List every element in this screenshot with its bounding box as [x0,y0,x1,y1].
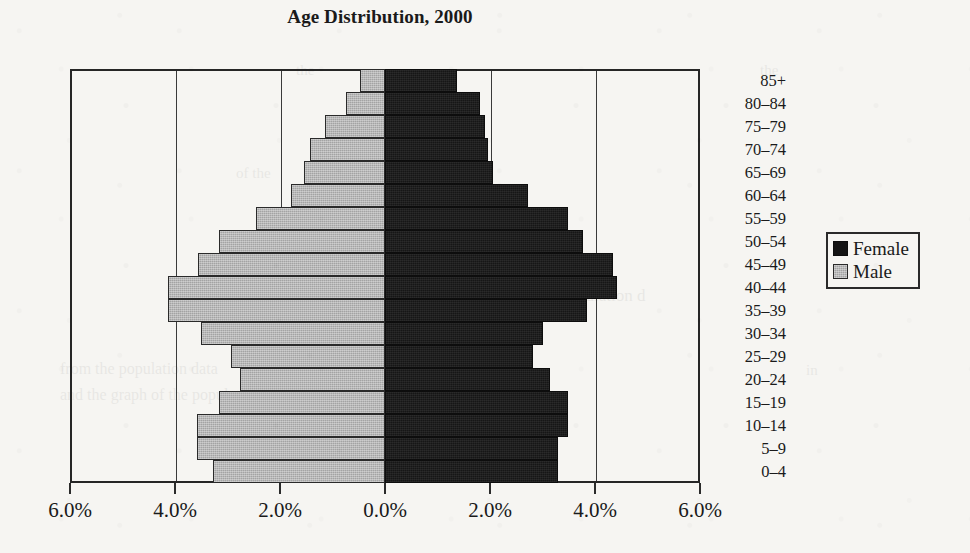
age-group-label: 85+ [706,69,786,92]
legend-swatch-icon [833,264,848,279]
legend-label: Female [853,239,909,258]
bar-female-80-84 [385,92,480,115]
bar-male-25-29 [231,345,385,368]
bar-row [70,460,700,483]
bleed-through-text: in [806,362,818,379]
bar-male-30-34 [201,322,385,345]
bar-female-65-69 [385,161,493,184]
age-group-axis-labels: 85+80–8475–7970–7465–6960–6455–5950–5445… [706,69,786,483]
x-axis-tick [174,483,176,494]
x-axis-tick-label: 6.0% [645,498,755,523]
bar-row [70,414,700,437]
x-axis-tick-label: 2.0% [435,498,545,523]
bar-male-65-69 [304,161,385,184]
age-group-label: 10–14 [706,414,786,437]
bar-male-45-49 [198,253,385,276]
bar-row [70,437,700,460]
x-axis-tick [279,483,281,494]
bar-row [70,368,700,391]
bar-female-70-74 [385,138,488,161]
x-axis-tick-label: 4.0% [120,498,230,523]
bar-female-30-34 [385,322,543,345]
bar-female-25-29 [385,345,533,368]
age-group-label: 5–9 [706,437,786,460]
bar-female-60-64 [385,184,528,207]
bar-male-50-54 [219,230,385,253]
age-group-label: 70–74 [706,138,786,161]
bar-male-40-44 [168,276,385,299]
bar-row [70,138,700,161]
x-axis-tick [384,483,386,494]
legend-item-female: Female [833,237,909,260]
age-group-label: 55–59 [706,207,786,230]
bar-male-75-79 [325,115,385,138]
chart-title: Age Distribution, 2000 [0,6,760,28]
x-axis-tick [699,483,701,494]
bar-row [70,207,700,230]
bar-male-80-84 [346,92,385,115]
x-axis-tick [69,483,71,494]
legend-swatch-icon [833,241,848,256]
chart-legend: FemaleMale [826,232,920,289]
bar-male-0-4 [213,460,385,483]
x-axis-tick-label: 2.0% [225,498,335,523]
bar-row [70,115,700,138]
bar-female-0-4 [385,460,558,483]
bar-female-20-24 [385,368,550,391]
bar-female-40-44 [385,276,617,299]
bar-female-50-54 [385,230,583,253]
bar-male-5-9 [197,437,385,460]
age-group-label: 40–44 [706,276,786,299]
x-axis-tick-label: 4.0% [540,498,650,523]
age-group-label: 80–84 [706,92,786,115]
bar-male-35-39 [168,299,385,322]
bar-male-10-14 [197,414,385,437]
bar-row [70,345,700,368]
x-axis-tick-label: 0.0% [330,498,440,523]
age-group-label: 50–54 [706,230,786,253]
age-group-label: 35–39 [706,299,786,322]
age-group-label: 25–29 [706,345,786,368]
age-group-label: 60–64 [706,184,786,207]
age-group-label: 65–69 [706,161,786,184]
bar-female-15-19 [385,391,568,414]
bar-row [70,161,700,184]
bar-male-55-59 [256,207,385,230]
age-group-label: 30–34 [706,322,786,345]
legend-item-male: Male [833,260,909,283]
bar-female-75-79 [385,115,485,138]
bar-row [70,299,700,322]
bar-female-85+ [385,69,457,92]
bar-row [70,253,700,276]
bar-male-85+ [360,69,385,92]
x-axis-tick [594,483,596,494]
bar-female-35-39 [385,299,587,322]
age-group-label: 0–4 [706,460,786,483]
legend-label: Male [853,262,892,281]
bar-row [70,92,700,115]
bar-row [70,322,700,345]
bar-male-70-74 [310,138,385,161]
bar-male-20-24 [240,368,385,391]
bar-female-55-59 [385,207,568,230]
bar-row [70,230,700,253]
age-group-label: 75–79 [706,115,786,138]
x-axis-tick [489,483,491,494]
bar-male-15-19 [219,391,385,414]
bar-row [70,391,700,414]
bars-layer [70,69,700,483]
bar-male-60-64 [291,184,385,207]
age-group-label: 45–49 [706,253,786,276]
bar-row [70,184,700,207]
bar-female-10-14 [385,414,568,437]
age-group-label: 20–24 [706,368,786,391]
bar-female-45-49 [385,253,613,276]
age-group-label: 15–19 [706,391,786,414]
x-axis-tick-label: 6.0% [15,498,125,523]
bar-row [70,276,700,299]
bar-row [70,69,700,92]
bar-female-5-9 [385,437,558,460]
